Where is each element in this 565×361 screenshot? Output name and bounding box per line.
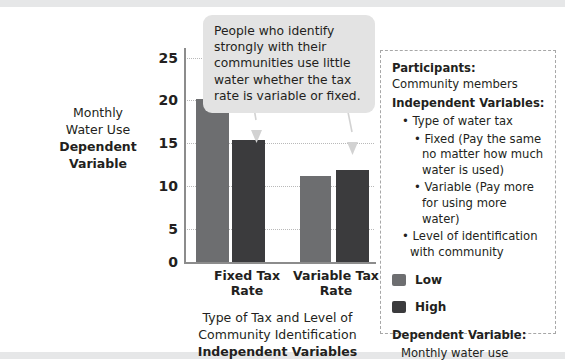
x-axis-title-bold: Independent Variables <box>170 344 385 361</box>
dependent-variable-value: Monthly water use <box>401 346 545 361</box>
y-tick-25: 25 <box>142 50 178 66</box>
bar-chart: Monthly Water Use Dependent Variable 25 … <box>0 0 380 359</box>
bar-variable-high[interactable] <box>336 170 369 262</box>
bullet-fixed-tax: • Fixed (Pay the same no matter how much… <box>414 132 545 179</box>
y-axis-title-bold: Dependent Variable <box>58 139 138 173</box>
y-axis-ticks: 25 20 15 10 5 0 <box>138 48 178 262</box>
study-details-panel: Participants: Community members Independ… <box>380 50 556 334</box>
legend-item-low: Low <box>392 272 545 288</box>
legend-label-low: Low <box>415 272 442 288</box>
legend-item-high: High <box>392 299 545 315</box>
callout-annotation: People who identify strongly with their … <box>203 15 375 113</box>
participants-label: Participants: <box>392 61 476 75</box>
dependent-variable-block: Dependent Variable: Monthly water use <box>392 328 545 361</box>
x-group-label-variable-line1: Variable Tax <box>281 268 391 283</box>
participants-row: Participants: Community members <box>392 61 545 92</box>
bullet-variable-tax: • Variable (Pay more for using more wate… <box>414 180 545 227</box>
x-group-label-variable: Variable Tax Rate <box>281 268 391 298</box>
bullet-variable-tax-label: Variable (Pay more for using more water) <box>422 180 534 225</box>
x-axis-title-line2: Community Identification <box>170 327 385 344</box>
y-axis-title-line2: Water Use <box>58 122 138 139</box>
y-tick-0: 0 <box>142 254 178 270</box>
x-group-label-variable-line2: Rate <box>281 283 391 298</box>
y-axis-title-bold-line1: Dependent <box>59 139 136 154</box>
bullet-level-of-identification: • Level of identification with community <box>402 229 545 260</box>
y-tick-5: 5 <box>142 221 178 237</box>
y-tick-10: 10 <box>142 178 178 194</box>
bullet-level-of-identification-label: Level of identification with community <box>410 229 538 259</box>
y-tick-20: 20 <box>142 92 178 108</box>
bullet-type-of-water-tax: • Type of water tax <box>402 114 545 130</box>
x-axis-title-line1: Type of Tax and Level of <box>170 310 385 327</box>
x-axis-title: Type of Tax and Level of Community Ident… <box>170 310 385 361</box>
bar-variable-low[interactable] <box>300 176 331 262</box>
y-tick-15: 15 <box>142 135 178 151</box>
y-axis-title-bold-line2: Variable <box>69 156 127 171</box>
dependent-variable-header: Dependent Variable: <box>392 328 545 344</box>
participants-value: Community members <box>392 77 518 91</box>
bullet-fixed-tax-label: Fixed (Pay the same no matter how much w… <box>422 132 543 177</box>
legend-swatch-low-icon <box>392 274 406 286</box>
bar-fixed-low[interactable] <box>196 99 229 262</box>
y-axis-title: Monthly Water Use Dependent Variable <box>58 105 138 173</box>
bullet-type-of-water-tax-label: Type of water tax <box>413 114 513 128</box>
independent-variables-header: Independent Variables: <box>392 96 545 112</box>
bar-fixed-high[interactable] <box>232 140 265 262</box>
legend-swatch-high-icon <box>392 301 406 313</box>
legend-label-high: High <box>415 299 446 315</box>
x-axis-line <box>184 262 376 264</box>
y-axis-title-line1: Monthly <box>58 105 138 122</box>
